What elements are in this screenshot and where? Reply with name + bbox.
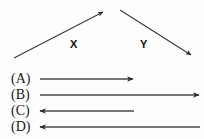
vector-diagram-figure: X Y (A) (B) (C) (D) <box>0 0 204 139</box>
vector-arrow-x <box>14 12 103 58</box>
option-label-c: (C) <box>11 104 30 118</box>
vector-label-x: X <box>70 39 78 50</box>
option-label-a: (A) <box>11 72 30 86</box>
vector-y-line <box>120 10 191 55</box>
vector-x-line <box>14 12 103 58</box>
diagram-canvas <box>0 0 204 139</box>
vector-label-y: Y <box>140 39 148 50</box>
vector-arrow-y <box>120 10 191 55</box>
option-label-d: (D) <box>11 120 30 134</box>
option-label-b: (B) <box>11 88 30 102</box>
